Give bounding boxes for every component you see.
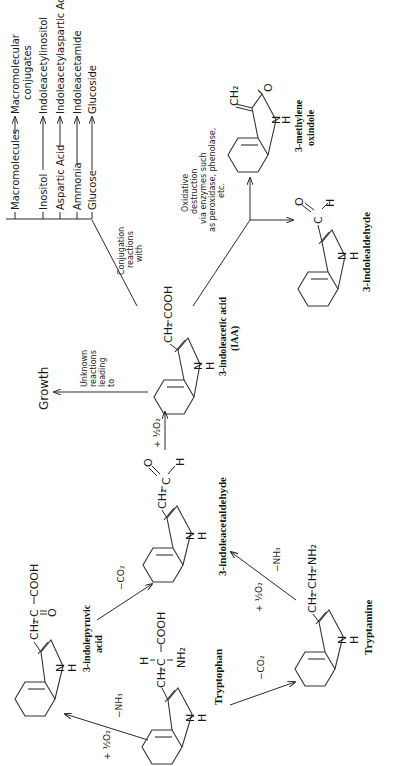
conj-note-3: with: [135, 245, 144, 262]
indolepyruvic-label-1: 3-indolepyruvic: [81, 604, 92, 672]
trp-c: C: [155, 658, 168, 666]
branch-4-reactant: Glucose: [87, 170, 98, 210]
tryptophan-label: Tryptophan: [212, 649, 224, 705]
trp-nh: H: [196, 714, 209, 722]
mox-nh: H: [280, 116, 293, 124]
iaa-label-2: (IAA): [229, 326, 241, 351]
branch-3-product: Indoleacetamide: [72, 30, 83, 114]
tam-nh2: NH₂: [306, 544, 319, 565]
indoleacetaldehyde-label: 3-indoleacetaldehyde: [216, 477, 228, 576]
indoleacetaldehyde-structure: N H CH₂ C O H 3-indoleacetaldehyde: [142, 458, 228, 582]
branch-2-product: Indoleacetylaspartic Acid: [55, 0, 66, 114]
indolepyruvic-label-2: acid: [93, 635, 104, 653]
pyr-nh: H: [66, 664, 79, 672]
indolealdehyde-structure: N H C O H 3-indolealdehyde: [293, 197, 372, 306]
ox-note-1: Oxidative: [181, 174, 190, 212]
pyr-c: C: [28, 609, 41, 617]
mox-o: O: [262, 83, 275, 92]
reagent-tam-ald-1: + ½O₂: [254, 582, 264, 612]
indole-ring-icon: [15, 640, 63, 716]
growth-note-4: to: [107, 379, 116, 387]
growth-note-3: leading: [98, 358, 107, 388]
pathway-diagram: N H CH₂ C H NH₂ COOH Tryptophan N H CH₂ …: [0, 0, 394, 766]
reagent-pyr-ald: −CO₂: [116, 565, 126, 590]
iaa-nh: H: [204, 362, 217, 370]
reagent-tam-ald-2: −NH₃: [272, 547, 282, 572]
trp-nh2: NH₂: [175, 647, 188, 668]
ald-nh: H: [196, 532, 209, 540]
branch-2-reactant: Aspartic Acid: [55, 145, 66, 210]
ald-o: O: [142, 458, 155, 467]
indolealdehyde-label: 3-indolealdehyde: [360, 212, 372, 292]
branch-0-product-2: conjugates: [22, 45, 33, 100]
tryptamine-structure: N H CH₂ CH₂ NH₂ Tryptamine: [295, 544, 374, 686]
ial-h: H: [324, 199, 337, 207]
branch-4-product: Glucoside: [87, 65, 98, 114]
methylene-oxindole-label-1: 3-methylene: [293, 99, 304, 152]
pyr-cooh: COOH: [28, 564, 41, 597]
indole-ring-icon: [142, 688, 192, 764]
branch-0-reactant: Macromolecules: [10, 129, 21, 210]
mox-ch2: CH₂: [228, 86, 241, 106]
reagent-trp-pyr-2: −NH₃: [114, 693, 124, 718]
tam-nh: H: [348, 636, 361, 644]
reagent-trp-pyr-1: + ½O₂: [102, 730, 112, 760]
ox-note-3: via enzymes such: [199, 153, 208, 224]
iaa-structure: N H CH₂ COOH 3-indoleacetic acid (IAA): [154, 286, 241, 414]
methylene-oxindole-label-2: oxindole: [305, 109, 316, 146]
branch-1-product: Indoleacetylinositol: [38, 17, 49, 114]
iaa-label-1: 3-indoleacetic acid: [217, 296, 228, 376]
reagent-trp-tam: −CO₂: [256, 655, 266, 680]
indolepyruvic-structure: N H CH₂ C O COOH 3-indolepyruvic acid: [15, 564, 104, 716]
ial-c: C: [312, 216, 325, 224]
arrow-trp-to-tryptamine: [230, 682, 295, 705]
branch-3-reactant: Ammonia: [72, 162, 83, 210]
conj-note-2: reactions: [126, 231, 135, 268]
pyr-o: O: [46, 608, 59, 617]
oxidative-line: [193, 220, 250, 306]
ald-c: C: [160, 477, 173, 485]
ox-note-4: as peroxidase, phenolase,: [208, 128, 217, 232]
trp-cooh: COOH: [155, 612, 168, 645]
iaa-cooh: COOH: [162, 286, 175, 319]
ox-note-2: destruction: [190, 169, 199, 214]
growth-note-2: reactions: [89, 350, 98, 387]
reagent-ald-iaa: + ½O₂: [152, 418, 162, 448]
ial-o: O: [293, 197, 306, 206]
branch-1-reactant: Inositol: [38, 174, 49, 210]
tryptamine-label: Tryptamine: [362, 599, 374, 655]
methylene-oxindole-structure: CH₂ O N H 3-methylene oxindole: [228, 83, 316, 172]
growth-note-1: Unknown: [80, 350, 89, 387]
ald-h: H: [174, 458, 187, 466]
trp-h: H: [138, 657, 151, 665]
conj-note-1: Conjugation: [117, 227, 126, 275]
ox-note-5: etc.: [217, 183, 226, 198]
growth-label: Growth: [37, 367, 51, 410]
branch-0-product-1: Macromolecular: [10, 33, 21, 114]
tryptophan-structure: N H CH₂ C H NH₂ COOH Tryptophan: [138, 612, 224, 764]
